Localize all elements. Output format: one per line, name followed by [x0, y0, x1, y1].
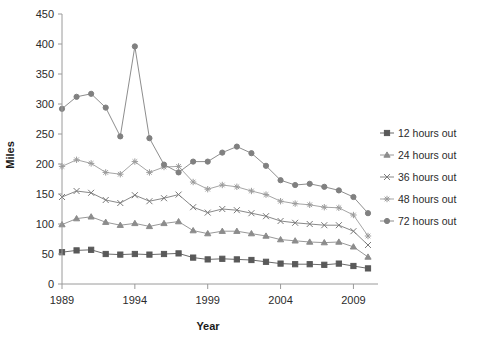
- data-point: [147, 136, 152, 141]
- data-point: [118, 252, 123, 257]
- y-tick-label: 400: [36, 38, 54, 50]
- legend-item-label: 36 hours out: [398, 171, 456, 183]
- data-point: [249, 257, 254, 262]
- data-point: [103, 169, 109, 175]
- data-point: [74, 94, 79, 99]
- data-point: [248, 188, 254, 194]
- x-tick-label: 2004: [268, 294, 292, 306]
- data-point: [351, 194, 356, 199]
- data-point: [365, 266, 370, 271]
- data-point: [147, 252, 152, 257]
- data-point: [263, 259, 268, 264]
- y-tick-label: 50: [42, 248, 54, 260]
- data-point: [205, 186, 211, 192]
- data-point: [384, 218, 389, 223]
- data-point: [132, 251, 137, 256]
- data-point: [161, 251, 166, 256]
- data-point: [103, 105, 108, 110]
- data-point: [263, 163, 268, 168]
- data-point: [234, 144, 239, 149]
- data-point: [89, 91, 94, 96]
- y-tick-label: 100: [36, 218, 54, 230]
- data-point: [384, 130, 389, 135]
- y-axis-title: Miles: [4, 141, 16, 169]
- data-point: [321, 204, 327, 210]
- line-chart: 0501001502002503003504004501989199419992…: [0, 0, 486, 340]
- data-point: [146, 169, 152, 175]
- data-point: [74, 248, 79, 253]
- data-point: [88, 160, 94, 166]
- chart-background: [0, 0, 486, 340]
- y-tick-label: 450: [36, 8, 54, 20]
- data-point: [205, 257, 210, 262]
- data-point: [384, 196, 390, 202]
- data-point: [176, 251, 181, 256]
- data-point: [350, 212, 356, 218]
- data-point: [190, 179, 196, 185]
- data-point: [234, 257, 239, 262]
- data-point: [132, 158, 138, 164]
- data-point: [278, 178, 283, 183]
- data-point: [89, 247, 94, 252]
- data-point: [277, 198, 283, 204]
- data-point: [117, 171, 123, 177]
- data-point: [103, 251, 108, 256]
- data-point: [249, 151, 254, 156]
- x-tick-label: 1994: [123, 294, 147, 306]
- data-point: [365, 211, 370, 216]
- data-point: [322, 262, 327, 267]
- data-point: [205, 159, 210, 164]
- legend-item-label: 24 hours out: [398, 149, 456, 161]
- data-point: [307, 181, 312, 186]
- data-point: [219, 182, 225, 188]
- y-tick-label: 200: [36, 158, 54, 170]
- data-point: [307, 262, 312, 267]
- legend-item-label: 12 hours out: [398, 127, 456, 139]
- data-point: [351, 263, 356, 268]
- y-tick-label: 150: [36, 188, 54, 200]
- data-point: [73, 157, 79, 163]
- data-point: [220, 150, 225, 155]
- data-point: [336, 188, 341, 193]
- data-point: [191, 255, 196, 260]
- y-tick-label: 350: [36, 68, 54, 80]
- x-tick-label: 1999: [195, 294, 219, 306]
- data-point: [307, 202, 313, 208]
- legend-item-label: 48 hours out: [398, 193, 456, 205]
- legend-item-label: 72 hours out: [398, 215, 456, 227]
- data-point: [322, 184, 327, 189]
- x-tick-label: 2009: [341, 294, 365, 306]
- x-axis-title: Year: [196, 320, 220, 332]
- data-point: [365, 233, 371, 239]
- data-point: [132, 44, 137, 49]
- y-tick-label: 250: [36, 128, 54, 140]
- data-point: [191, 159, 196, 164]
- y-tick-label: 0: [48, 278, 54, 290]
- data-point: [161, 162, 166, 167]
- data-point: [336, 205, 342, 211]
- data-point: [234, 184, 240, 190]
- data-point: [263, 191, 269, 197]
- data-point: [293, 182, 298, 187]
- x-tick-label: 1989: [50, 294, 74, 306]
- data-point: [176, 170, 181, 175]
- data-point: [278, 261, 283, 266]
- data-point: [292, 200, 298, 206]
- data-point: [175, 163, 181, 169]
- data-point: [293, 262, 298, 267]
- data-point: [220, 256, 225, 261]
- data-point: [118, 134, 123, 139]
- data-point: [336, 261, 341, 266]
- y-tick-label: 300: [36, 98, 54, 110]
